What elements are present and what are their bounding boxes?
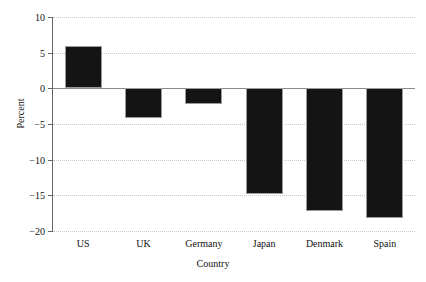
x-axis-tick-label: Germany xyxy=(185,238,222,249)
y-axis-tick xyxy=(48,124,53,125)
y-axis-tick-label: −5 xyxy=(0,119,45,130)
plot-area xyxy=(53,17,415,231)
y-axis-tick xyxy=(48,88,53,89)
y-axis-tick-label: 0 xyxy=(0,83,45,94)
bar-uk[interactable] xyxy=(125,88,162,117)
x-axis-tick-label: Japan xyxy=(253,238,276,249)
y-axis-tick xyxy=(48,231,53,232)
y-axis-tick-label: 5 xyxy=(0,47,45,58)
x-axis-tick-label: Spain xyxy=(373,238,396,249)
x-axis-title: Country xyxy=(0,258,426,269)
y-axis-tick xyxy=(48,195,53,196)
gridline xyxy=(53,124,415,125)
y-axis-tick xyxy=(48,17,53,18)
x-axis-tick-label: Denmark xyxy=(306,238,343,249)
y-axis-tick-label: −20 xyxy=(0,226,45,237)
x-axis-tick-label: UK xyxy=(136,238,150,249)
gridline xyxy=(53,17,415,18)
y-axis-tick xyxy=(48,53,53,54)
bar-denmark[interactable] xyxy=(306,88,343,211)
bar-japan[interactable] xyxy=(246,88,283,194)
gridline xyxy=(53,160,415,161)
y-axis-tick-label: −10 xyxy=(0,154,45,165)
gridline xyxy=(53,53,415,54)
y-axis-tick-label: 10 xyxy=(0,12,45,23)
bar-spain[interactable] xyxy=(366,88,403,218)
gridline xyxy=(53,231,415,232)
zero-line xyxy=(53,88,415,89)
bar-germany[interactable] xyxy=(185,88,222,104)
bar-chart: Percent 1050−5−10−15−20USUKGermanyJapanD… xyxy=(0,0,426,282)
x-axis-tick-label: US xyxy=(77,238,90,249)
y-axis-tick-label: −15 xyxy=(0,190,45,201)
bar-us[interactable] xyxy=(65,46,102,89)
y-axis-tick xyxy=(48,160,53,161)
gridline xyxy=(53,195,415,196)
